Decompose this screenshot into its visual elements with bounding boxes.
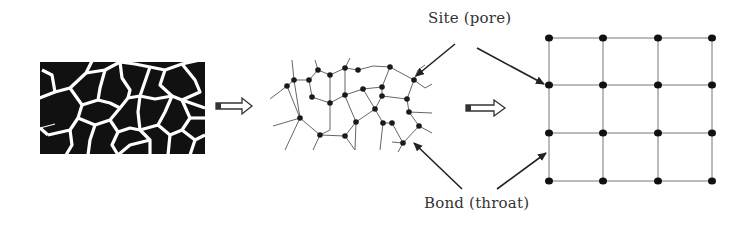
site-callout-arrows	[416, 44, 544, 84]
square-lattice-panel	[545, 35, 716, 185]
bond-throat-label: Bond (throat)	[424, 194, 529, 212]
transition-arrow-2	[466, 100, 505, 116]
porous-media-network-diagram	[0, 0, 756, 228]
transition-arrow-1	[216, 98, 252, 114]
pore-network-panel	[270, 58, 432, 152]
site-pore-label: Site (pore)	[428, 9, 511, 27]
porous-medium-panel	[37, 57, 205, 155]
bond-callout-arrows	[414, 143, 546, 189]
